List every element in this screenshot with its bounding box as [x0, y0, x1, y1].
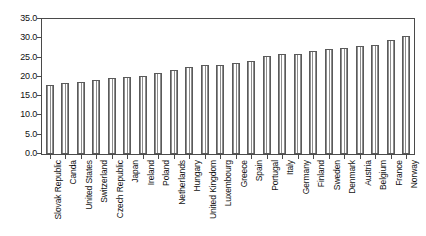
x-label-slot: Japan: [120, 160, 136, 236]
bar[interactable]: [340, 48, 348, 154]
x-label-slot: Denmark: [337, 160, 353, 236]
x-tick-mark: [143, 155, 144, 159]
bar-slot: [104, 19, 120, 154]
bar[interactable]: [123, 77, 131, 154]
y-tick-label: 5.0: [0, 129, 37, 138]
x-tick-mark: [220, 155, 221, 159]
x-tick-mark: [267, 155, 268, 159]
bar[interactable]: [402, 36, 410, 154]
x-label-slot: Finland: [306, 160, 322, 236]
x-label-slot: Canda: [58, 160, 74, 236]
y-tick-label: 10.0: [0, 110, 37, 119]
bar[interactable]: [294, 54, 302, 154]
bar-slot: [244, 19, 260, 154]
bar-slot: [290, 19, 306, 154]
bar-slot: [120, 19, 136, 154]
bar[interactable]: [232, 63, 240, 154]
bar[interactable]: [154, 73, 162, 154]
x-label-slot: Norway: [399, 160, 415, 236]
bar[interactable]: [278, 54, 286, 154]
x-tick-mark: [158, 155, 159, 159]
bar[interactable]: [263, 56, 271, 154]
x-label-slot: United Kingdom: [197, 160, 213, 236]
x-label-slot: United States: [73, 160, 89, 236]
x-label-slot: Poland: [151, 160, 167, 236]
bar-slot: [368, 19, 384, 154]
bar-slot: [58, 19, 74, 154]
bar-slot: [352, 19, 368, 154]
bar-slot: [135, 19, 151, 154]
x-label-slot: Germany: [290, 160, 306, 236]
bar[interactable]: [201, 65, 209, 154]
y-axis: 35.030.025.020.015.010.05.00.0: [0, 18, 37, 155]
x-tick-mark: [282, 155, 283, 159]
bar[interactable]: [387, 40, 395, 154]
x-tick-mark: [251, 155, 252, 159]
bar[interactable]: [92, 80, 100, 154]
x-label-slot: Sweden: [321, 160, 337, 236]
y-tick-label: 20.0: [0, 71, 37, 80]
x-tick-mark: [375, 155, 376, 159]
bar-slot: [321, 19, 337, 154]
bar[interactable]: [108, 78, 116, 154]
x-tick-label: Norway: [410, 160, 419, 188]
bar-slot: [42, 19, 58, 154]
bar[interactable]: [46, 85, 54, 154]
x-tick-mark: [127, 155, 128, 159]
x-tick-mark: [298, 155, 299, 159]
x-tick-mark: [360, 155, 361, 159]
y-tick-label: 35.0: [0, 14, 37, 23]
x-tick-mark: [174, 155, 175, 159]
bar[interactable]: [185, 67, 193, 154]
x-label-slot: Greece: [228, 160, 244, 236]
bar-slot: [151, 19, 167, 154]
x-tick-mark: [50, 155, 51, 159]
bar-slot: [275, 19, 291, 154]
x-label-slot: Italy: [275, 160, 291, 236]
bar-slot: [259, 19, 275, 154]
x-label-slot: Portugal: [259, 160, 275, 236]
x-tick-mark: [205, 155, 206, 159]
bar-slot: [89, 19, 105, 154]
x-label-slot: Ireland: [135, 160, 151, 236]
bar-slot: [73, 19, 89, 154]
bar[interactable]: [309, 51, 317, 154]
bar-slot: [197, 19, 213, 154]
bar[interactable]: [356, 46, 364, 154]
bars-container: [42, 19, 414, 154]
x-tick-mark: [406, 155, 407, 159]
x-axis-labels: Slovak RepublicCandaUnited StatesSwitzer…: [42, 160, 414, 236]
bar-slot: [213, 19, 229, 154]
x-tick-mark: [189, 155, 190, 159]
x-tick-mark: [329, 155, 330, 159]
bar-slot: [383, 19, 399, 154]
bar[interactable]: [61, 83, 69, 154]
y-tick-label: 30.0: [0, 33, 37, 42]
x-tick-mark: [344, 155, 345, 159]
bar[interactable]: [77, 82, 85, 154]
bar[interactable]: [216, 65, 224, 154]
bar-chart: 35.030.025.020.015.010.05.00.0 Slovak Re…: [0, 0, 426, 236]
x-tick-mark: [313, 155, 314, 159]
bar-slot: [306, 19, 322, 154]
bar[interactable]: [170, 70, 178, 154]
x-tick-mark: [236, 155, 237, 159]
bar-slot: [228, 19, 244, 154]
x-tick-mark: [81, 155, 82, 159]
x-tick-mark: [391, 155, 392, 159]
y-tick-label: 25.0: [0, 52, 37, 61]
x-label-slot: France: [383, 160, 399, 236]
x-label-slot: Spain: [244, 160, 260, 236]
bar[interactable]: [139, 76, 147, 154]
bar[interactable]: [247, 61, 255, 154]
x-axis-ticks: [42, 155, 414, 159]
bar-slot: [337, 19, 353, 154]
x-label-slot: Czech Republic: [104, 160, 120, 236]
y-tick-label: 0.0: [0, 149, 37, 158]
bar[interactable]: [325, 49, 333, 154]
bar[interactable]: [371, 45, 379, 154]
bar-slot: [182, 19, 198, 154]
x-tick-mark: [112, 155, 113, 159]
x-label-slot: Austria: [352, 160, 368, 236]
x-label-slot: Belgium: [368, 160, 384, 236]
